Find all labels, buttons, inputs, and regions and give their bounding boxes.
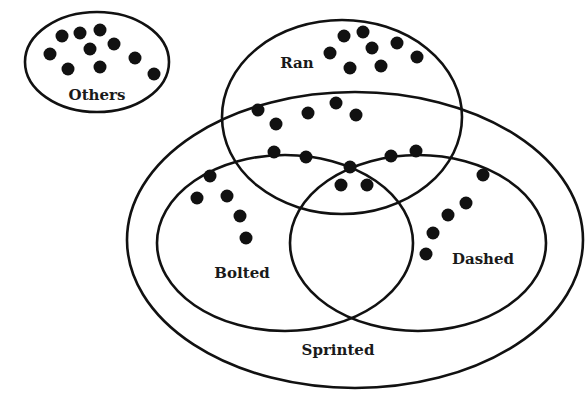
- dot-ran-only: [324, 47, 337, 60]
- dot-dashed-only: [442, 209, 455, 222]
- dot-ran-bolted-dashed: [361, 179, 374, 192]
- dot-bolted-only: [221, 190, 234, 203]
- dot-dashed-only: [477, 169, 490, 182]
- dot-ran-and-sprinted: [302, 107, 315, 120]
- dot-ran-only: [391, 37, 404, 50]
- dot-others: [148, 68, 161, 81]
- dot-others: [44, 48, 57, 61]
- dot-ran-and-sprinted: [252, 104, 265, 117]
- dot-ran-only: [338, 30, 351, 43]
- dot-ran-and-sprinted: [330, 97, 343, 110]
- dot-bolted-only: [204, 170, 217, 183]
- dot-ran-only: [366, 42, 379, 55]
- dot-ran-only: [375, 60, 388, 73]
- member-dots: [44, 24, 490, 261]
- label-dashed: Dashed: [452, 250, 515, 268]
- dot-ran-and-dashed: [410, 145, 423, 158]
- dot-others: [94, 24, 107, 37]
- dot-others: [74, 27, 87, 40]
- dot-ran-and-sprinted: [350, 109, 363, 122]
- dot-others: [94, 61, 107, 74]
- dot-dashed-only: [460, 197, 473, 210]
- label-others: Others: [69, 86, 126, 104]
- dot-ran-and-bolted: [268, 146, 281, 159]
- dot-others: [84, 43, 97, 56]
- dot-others: [62, 63, 75, 76]
- dot-ran-only: [344, 62, 357, 75]
- label-bolted: Bolted: [214, 264, 270, 282]
- dot-dashed-only: [420, 248, 433, 261]
- dot-others: [56, 30, 69, 43]
- dot-bolted-only: [234, 210, 247, 223]
- dot-others: [108, 38, 121, 51]
- venn-diagram: Others Ran Sprinted Bolted Dashed: [0, 0, 585, 402]
- dot-dashed-only: [427, 227, 440, 240]
- dot-bolted-only: [240, 232, 253, 245]
- set-dashed-ellipse: [290, 155, 546, 331]
- dot-ran-bolted-dashed: [335, 179, 348, 192]
- dot-ran-bolted-dashed: [344, 161, 357, 174]
- label-sprinted: Sprinted: [302, 341, 375, 359]
- set-bolted-ellipse: [157, 155, 413, 331]
- dot-others: [129, 52, 142, 65]
- dot-ran-only: [357, 26, 370, 39]
- dot-bolted-only: [191, 192, 204, 205]
- dot-ran-and-sprinted: [270, 118, 283, 131]
- label-ran: Ran: [280, 54, 314, 72]
- dot-ran-only: [411, 51, 424, 64]
- dot-ran-and-bolted: [300, 151, 313, 164]
- dot-ran-and-dashed: [385, 150, 398, 163]
- set-labels: Others Ran Sprinted Bolted Dashed: [69, 54, 515, 359]
